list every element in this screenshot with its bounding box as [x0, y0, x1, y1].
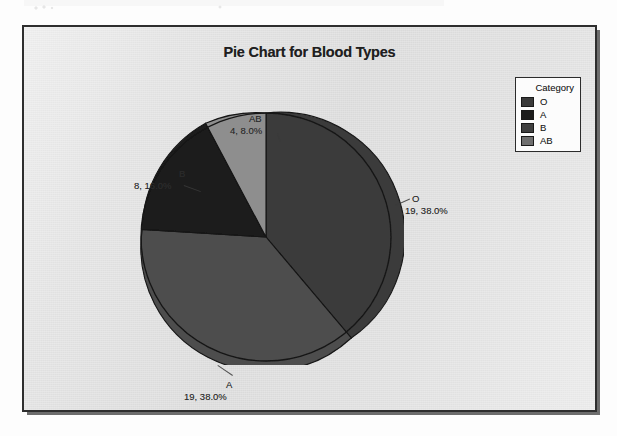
- legend-label-ab: AB: [540, 135, 553, 146]
- data-label-a-category: A: [226, 379, 232, 391]
- legend-item-ab: AB: [521, 135, 575, 146]
- legend-item-b: B: [521, 122, 575, 133]
- data-label-o: O 19, 38.0%: [405, 193, 448, 217]
- data-label-o-category: O: [412, 193, 448, 205]
- pie-svg: [128, 109, 404, 365]
- data-label-ab: AB 4, 8.0%: [230, 113, 262, 137]
- data-label-o-value: 19, 38.0%: [405, 205, 448, 217]
- data-label-a: A 19, 38.0%: [184, 379, 232, 403]
- data-label-b-value: 8, 16.0%: [134, 180, 185, 192]
- pie-chart: [128, 109, 404, 365]
- figure-screenshot: Pie Chart for Blood Types: [0, 0, 617, 436]
- data-label-b: B 8, 16.0%: [134, 168, 185, 192]
- legend-swatch-ab: [521, 136, 534, 146]
- legend-label-b: B: [540, 122, 546, 133]
- legend-swatch-b: [521, 123, 534, 133]
- figure-frame: Pie Chart for Blood Types: [22, 25, 597, 412]
- chart-title: Pie Chart for Blood Types: [24, 44, 595, 60]
- legend-title: Category: [521, 82, 574, 93]
- legend: Category O A B AB: [515, 77, 581, 152]
- legend-label-a: A: [540, 109, 546, 120]
- data-label-ab-value: 4, 8.0%: [230, 125, 262, 137]
- data-label-b-category: B: [179, 168, 185, 180]
- leader-line-a: [217, 365, 232, 376]
- legend-swatch-a: [521, 110, 534, 120]
- legend-swatch-o: [521, 97, 534, 107]
- legend-item-a: A: [521, 109, 575, 120]
- legend-item-o: O: [521, 96, 575, 107]
- data-label-ab-category: AB: [249, 113, 262, 125]
- scan-artifact: [24, 0, 444, 12]
- data-label-a-value: 19, 38.0%: [184, 391, 232, 403]
- legend-label-o: O: [540, 96, 547, 107]
